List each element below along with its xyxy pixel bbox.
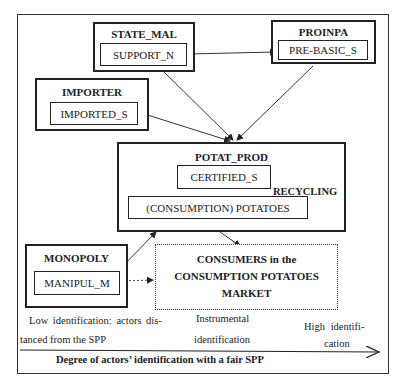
axis-low-line-2: tanced from the SPP [20, 334, 106, 345]
potat-prod-node: POTAT_PROD CERTIFIED_S (CONSUMPTION) POT… [117, 142, 346, 232]
axis-caption: Degree of actors’ identification with a … [56, 354, 264, 365]
importer-title: IMPORTER [37, 86, 147, 98]
monopoly-node: MONOPOLY MANIPUL_M [25, 244, 128, 308]
imported-s-box: IMPORTED_S [50, 102, 138, 125]
certified-s-box: CERTIFIED_S [177, 165, 271, 189]
recycling-label: RECYCLING [273, 186, 337, 197]
proinpa-node: PROINPA PRE-BASIC_S [271, 20, 376, 64]
support-n-box: SUPPORT_N [100, 43, 187, 66]
state-mal-node: STATE_MAL SUPPORT_N [93, 22, 195, 72]
manipul-m-box: MANIPUL_M [34, 271, 120, 295]
axis-high-line-2: cation [324, 338, 350, 349]
state-mal-title: STATE_MAL [95, 28, 193, 40]
axis-low-line-1: Low identification: actors dis- [29, 315, 162, 326]
axis-high-line-1: High identifi- [304, 321, 364, 332]
proinpa-title: PROINPA [273, 26, 374, 38]
monopoly-title: MONOPOLY [27, 252, 126, 264]
pre-basic-s-box: PRE-BASIC_S [278, 40, 368, 60]
axis-mid-line-1: Instrumental [196, 313, 249, 324]
consumers-line-1: CONSUMERS in the [156, 251, 337, 268]
consumption-potatoes-box: (CONSUMPTION) POTATOES [128, 196, 308, 219]
consumers-node: CONSUMERS in the CONSUMPTION POTATOES MA… [155, 244, 338, 310]
consumers-line-2: CONSUMPTION POTATOES [156, 268, 337, 285]
consumers-line-3: MARKET [156, 285, 337, 302]
potat-prod-title: POTAT_PROD [119, 151, 344, 163]
axis-mid-line-2: identification [194, 334, 250, 345]
importer-node: IMPORTER IMPORTED_S [35, 78, 149, 131]
